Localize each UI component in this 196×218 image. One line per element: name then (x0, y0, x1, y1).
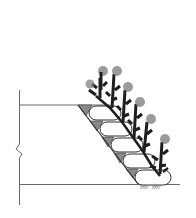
slope-bioengineering-diagram (0, 0, 196, 218)
anchor-stake-icon (152, 185, 161, 189)
plant-icon (86, 66, 109, 98)
anchor-stakes (140, 185, 161, 189)
section-break-line (16, 90, 22, 205)
soil-bag (135, 170, 171, 185)
soil-bag (89, 106, 121, 120)
anchor-stake-icon (140, 185, 149, 189)
plant-icon (150, 134, 170, 174)
plant-icon (106, 66, 122, 108)
